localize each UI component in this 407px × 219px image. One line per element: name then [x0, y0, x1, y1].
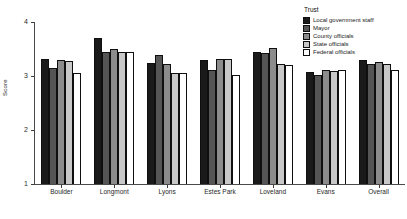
bar: [261, 53, 269, 184]
bar: [155, 55, 163, 184]
bar: [49, 68, 57, 184]
legend-swatch: [303, 17, 310, 24]
x-tick-mark: [326, 185, 327, 188]
bar: [314, 75, 322, 184]
legend-item: Mayor: [303, 24, 404, 32]
bar: [94, 38, 102, 184]
x-tick-mark: [273, 185, 274, 188]
bar: [322, 70, 330, 184]
bar: [171, 73, 179, 184]
bar: [224, 59, 232, 184]
bar: [200, 60, 208, 184]
bar-group: [253, 22, 293, 184]
bar: [208, 70, 216, 184]
bar: [118, 52, 126, 184]
legend-item: State officials: [303, 40, 404, 48]
bar: [367, 64, 375, 184]
bar: [57, 60, 65, 184]
legend-label: State officials: [313, 41, 349, 48]
legend-item: County officials: [303, 32, 404, 40]
legend-swatch: [303, 49, 310, 56]
bar: [253, 52, 261, 184]
bar-group: [94, 22, 134, 184]
legend-title: Trust: [304, 6, 404, 14]
x-tick-label: Overall: [339, 188, 407, 196]
bar: [285, 65, 293, 184]
bar: [65, 61, 73, 184]
bar: [41, 59, 49, 184]
legend-item: Local government staff: [303, 16, 404, 24]
legend-label: Federal officials: [313, 49, 355, 56]
bar: [216, 59, 224, 184]
legend-swatch: [303, 41, 310, 48]
bar: [147, 63, 155, 185]
x-tick-mark: [220, 185, 221, 188]
bar-group: [200, 22, 240, 184]
y-tick-label: 1: [14, 180, 28, 187]
bar: [391, 70, 399, 184]
x-tick-mark: [114, 185, 115, 188]
x-tick-mark: [167, 185, 168, 188]
bar-group: [41, 22, 81, 184]
bar: [330, 71, 338, 184]
legend: Trust Local government staffMayorCounty …: [303, 6, 404, 56]
bar: [102, 52, 110, 184]
bar: [110, 49, 118, 184]
bar: [375, 62, 383, 184]
legend-swatch: [303, 33, 310, 40]
legend-label: County officials: [313, 33, 354, 40]
legend-label: Local government staff: [313, 17, 374, 24]
bar-chart: Score 1234 BoulderLongmontLyonsEstes Par…: [0, 0, 407, 219]
bar: [277, 64, 285, 184]
y-tick-label: 2: [14, 126, 28, 133]
legend-label: Mayor: [313, 25, 330, 32]
legend-swatch: [303, 25, 310, 32]
bar: [163, 64, 171, 184]
bar: [383, 64, 391, 184]
bar: [359, 60, 367, 184]
legend-entries: Local government staffMayorCounty offici…: [303, 16, 404, 56]
y-tick-label: 4: [14, 18, 28, 25]
x-tick-mark: [379, 185, 380, 188]
bar: [179, 73, 187, 184]
bar: [73, 73, 81, 184]
x-tick-mark: [61, 185, 62, 188]
bar-group: [147, 22, 187, 184]
y-tick-label: 3: [14, 72, 28, 79]
bar: [232, 75, 240, 184]
legend-item: Federal officials: [303, 48, 404, 56]
bar: [306, 72, 314, 184]
bar: [269, 48, 277, 184]
y-axis-label: Score: [2, 79, 8, 96]
bar: [126, 52, 134, 184]
bar: [338, 70, 346, 184]
